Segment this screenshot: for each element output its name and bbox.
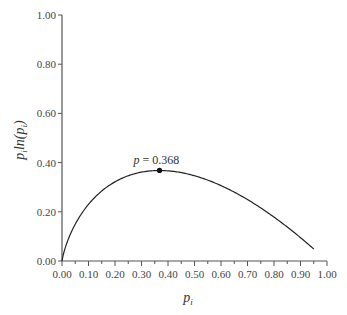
x-tick-label: 0.20 (105, 268, 125, 280)
peak-annotation: p = 0.368 (133, 153, 180, 167)
x-tick-label: 1.00 (317, 268, 337, 280)
x-axis-ticks: 0.000.100.200.300.400.500.600.700.800.90… (52, 261, 337, 280)
axes (62, 15, 327, 261)
x-tick-label: 0.30 (132, 268, 152, 280)
x-tick-label: 0.60 (211, 268, 231, 280)
y-tick-label: 0.00 (37, 255, 57, 267)
chart: 0.000.100.200.300.400.500.600.700.800.90… (0, 0, 347, 315)
y-tick-label: 0.60 (37, 107, 57, 119)
y-tick-label: 1.00 (37, 9, 57, 21)
x-tick-label: 0.90 (291, 268, 311, 280)
peak-marker (157, 168, 162, 173)
x-tick-label: 0.80 (264, 268, 284, 280)
entropy-curve (62, 171, 314, 262)
y-axis-label: piln(pi) (12, 120, 29, 161)
x-tick-label: 0.00 (52, 268, 72, 280)
y-axis-ticks: 0.000.200.400.600.801.00 (37, 9, 62, 267)
x-tick-label: 0.40 (158, 268, 178, 280)
y-tick-label: 0.80 (37, 58, 57, 70)
x-tick-label: 0.70 (238, 268, 258, 280)
x-tick-label: 0.10 (79, 268, 99, 280)
x-tick-label: 0.50 (185, 268, 205, 280)
y-tick-label: 0.20 (37, 206, 57, 218)
x-axis-label: pi (182, 290, 193, 307)
y-tick-label: 0.40 (37, 157, 57, 169)
